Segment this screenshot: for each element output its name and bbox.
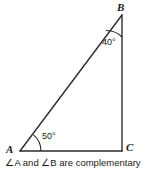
side-hypotenuse-ab xyxy=(20,15,122,151)
figure-caption: ∠A and ∠B are complementary xyxy=(0,157,146,169)
vertex-label-b: B xyxy=(117,2,124,13)
geometry-figure: A B C 50° 40° ∠A and ∠B are complementar… xyxy=(0,0,146,171)
vertex-label-a: A xyxy=(6,144,13,155)
angle-measure-a: 50° xyxy=(42,132,56,141)
vertex-label-c: C xyxy=(126,142,133,153)
triangle-drawing xyxy=(0,0,146,155)
angle-arc-a xyxy=(34,135,42,151)
angle-measure-b: 40° xyxy=(102,38,116,47)
